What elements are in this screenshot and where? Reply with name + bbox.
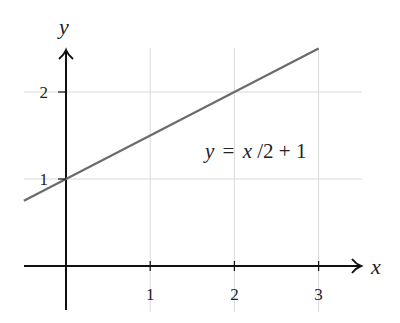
- axes: [24, 50, 361, 310]
- x-tick-label: 1: [146, 285, 155, 304]
- series-line: [24, 49, 319, 201]
- x-tick-label: 3: [314, 285, 323, 304]
- chart-canvas: 12312 y x y = x /2 + 1: [0, 0, 400, 323]
- tick-labels: 12312: [40, 83, 323, 304]
- data-line: [24, 49, 319, 201]
- y-tick-label: 2: [40, 83, 49, 102]
- y-axis-label: y: [57, 14, 69, 39]
- x-tick-label: 2: [230, 285, 239, 304]
- equation-annotation: y = x /2 + 1: [203, 139, 306, 163]
- x-axis-label: x: [370, 254, 381, 279]
- y-tick-label: 1: [40, 170, 49, 189]
- grid: [24, 48, 362, 312]
